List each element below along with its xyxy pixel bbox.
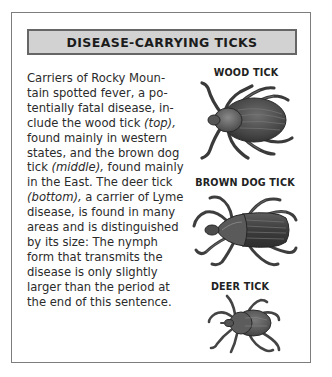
text-line: (bottom), a carrier of Lyme (27, 190, 177, 205)
text-line: tick (middle), found mainly (27, 160, 177, 175)
text-span: tentially fatal disease, in- (27, 101, 174, 115)
text-line: tentially fatal disease, in- (27, 101, 177, 116)
text-line: Carriers of Rocky Moun- (27, 71, 177, 86)
header-bar: DISEASE-CARRYING TICKS (27, 29, 297, 55)
text-line: areas and is distinguished (27, 220, 177, 235)
brown-dog-tick-label: BROWN DOG TICK (190, 177, 300, 188)
text-line: the end of this sentence. (27, 295, 177, 310)
text-span: larger than the period at (27, 280, 170, 294)
text-span: clude the wood tick (27, 116, 144, 130)
italic-span: (bottom), (27, 190, 82, 204)
text-line: states, and the brown dog (27, 146, 177, 161)
text-span: found mainly (104, 160, 184, 174)
text-line: larger than the period at (27, 280, 177, 295)
deer-tick-illustration-icon (205, 292, 285, 356)
text-span: the end of this sentence. (27, 295, 172, 309)
text-span: tain spotted fever, a po- (27, 86, 168, 100)
text-line: in the East. The deer tick (27, 175, 177, 190)
text-span: states, and the brown dog (27, 146, 179, 160)
text-span: in the East. The deer tick (27, 175, 173, 189)
text-span: disease, is found in many (27, 205, 175, 219)
deer-tick-label: DEER TICK (200, 281, 280, 292)
text-line: by its size: The nymph (27, 235, 177, 250)
brown-dog-tick-illustration-icon (186, 190, 302, 270)
text-span: a carrier of Lyme (82, 190, 184, 204)
text-span: form that transmits the (27, 250, 163, 264)
body-paragraph: Carriers of Rocky Moun- tain spotted fev… (27, 71, 177, 310)
text-line: disease is only slightly (27, 265, 177, 280)
text-line: form that transmits the (27, 250, 177, 265)
wood-tick-label: WOOD TICK (206, 67, 286, 78)
text-span: tick (27, 160, 52, 174)
text-span: found mainly in western (27, 131, 167, 145)
wood-tick-illustration-icon (190, 80, 300, 160)
text-line: found mainly in western (27, 131, 177, 146)
text-span: Carriers of Rocky Moun- (27, 71, 165, 85)
italic-span: (middle), (52, 160, 104, 174)
text-line: disease, is found in many (27, 205, 177, 220)
italic-span: (top), (144, 116, 176, 130)
text-line: tain spotted fever, a po- (27, 86, 177, 101)
text-span: disease is only slightly (27, 265, 158, 279)
text-span: by its size: The nymph (27, 235, 158, 249)
box-title: DISEASE-CARRYING TICKS (66, 35, 257, 50)
text-line: clude the wood tick (top), (27, 116, 177, 131)
text-span: areas and is distinguished (27, 220, 179, 234)
